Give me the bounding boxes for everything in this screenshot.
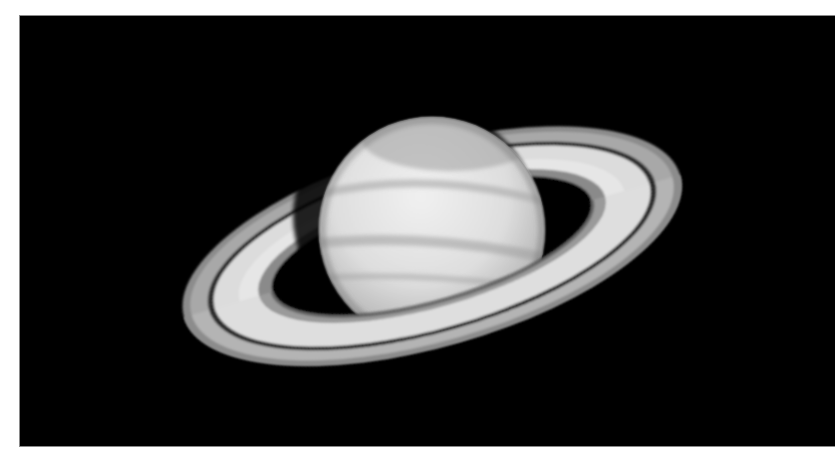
saturn-photo	[20, 16, 835, 446]
saturn-illustration	[20, 16, 835, 446]
